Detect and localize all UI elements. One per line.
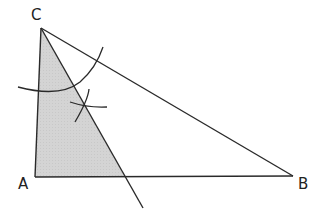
- vertex-label-b: B: [298, 175, 308, 193]
- side-ab: [35, 176, 293, 177]
- triangle-diagram: C A B: [0, 0, 322, 215]
- vertex-label-a: A: [18, 175, 29, 193]
- vertex-label-c: C: [31, 6, 41, 24]
